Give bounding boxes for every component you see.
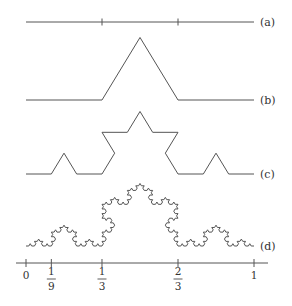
unit-axis: 01913231 [16, 259, 268, 292]
stage-a: (a) [26, 16, 275, 29]
fraction-denominator: 3 [175, 280, 182, 292]
fraction-denominator: 3 [99, 280, 106, 292]
koch-curve-iteration-4 [26, 183, 254, 246]
stage-label: (b) [260, 94, 276, 107]
tick-label-fraction: 13 [97, 265, 106, 292]
tick-label: 1 [251, 269, 258, 281]
stage-label: (c) [260, 168, 275, 181]
tick-label-fraction: 19 [47, 265, 56, 292]
fraction-numerator: 2 [175, 265, 182, 277]
stage-b: (b) [26, 37, 276, 107]
tick-label-fraction: 23 [174, 265, 183, 292]
fraction-denominator: 9 [48, 280, 55, 292]
fraction-numerator: 1 [99, 265, 106, 277]
koch-curve-iteration-2 [26, 111, 254, 174]
stage-c: (c) [26, 111, 275, 181]
koch-curve-iteration-1 [26, 37, 254, 100]
stage-label: (a) [260, 16, 275, 29]
stage-d: (d) [26, 183, 276, 253]
stage-label: (d) [260, 240, 276, 253]
koch-curve-figure: (a)(b)(c)(d) 01913231 [0, 0, 292, 306]
fraction-numerator: 1 [48, 265, 55, 277]
tick-label: 0 [23, 269, 30, 281]
